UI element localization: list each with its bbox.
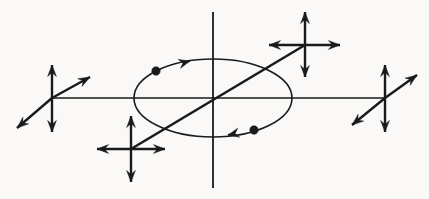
point-mass-upper-left xyxy=(152,67,160,75)
point-mass-lower-right xyxy=(250,126,258,134)
vector-diagram-svg xyxy=(0,0,429,199)
diagram-canvas xyxy=(0,0,429,199)
